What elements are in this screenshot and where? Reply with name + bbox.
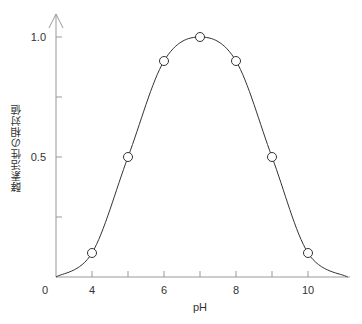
- data-markers: [88, 33, 313, 258]
- x-tick-label-8: 8: [233, 284, 239, 296]
- x-ticks: [92, 271, 308, 277]
- activity-curve: [56, 37, 348, 277]
- data-point-marker: [268, 153, 277, 162]
- data-point-marker: [304, 249, 313, 258]
- data-point-marker: [124, 153, 133, 162]
- data-point-marker: [232, 57, 241, 66]
- x-tick-label-6: 6: [161, 284, 167, 296]
- data-point-marker: [196, 33, 205, 42]
- data-point-marker: [160, 57, 169, 66]
- data-point-marker: [88, 249, 97, 258]
- x-tick-label-10: 10: [302, 284, 314, 296]
- y-ticks: [56, 37, 62, 217]
- x-tick-label-4: 4: [89, 284, 95, 296]
- y-tick-label-1-0: 1.0: [31, 31, 46, 43]
- y-axis-title: 酵素活性の相対値: [10, 104, 24, 192]
- origin-label: 0: [42, 284, 48, 296]
- enzyme-activity-chart: 1.0 0.5 0 4 6 8 10 pH: [0, 0, 362, 324]
- x-axis-title: pH: [193, 301, 207, 313]
- y-tick-label-0-5: 0.5: [31, 151, 46, 163]
